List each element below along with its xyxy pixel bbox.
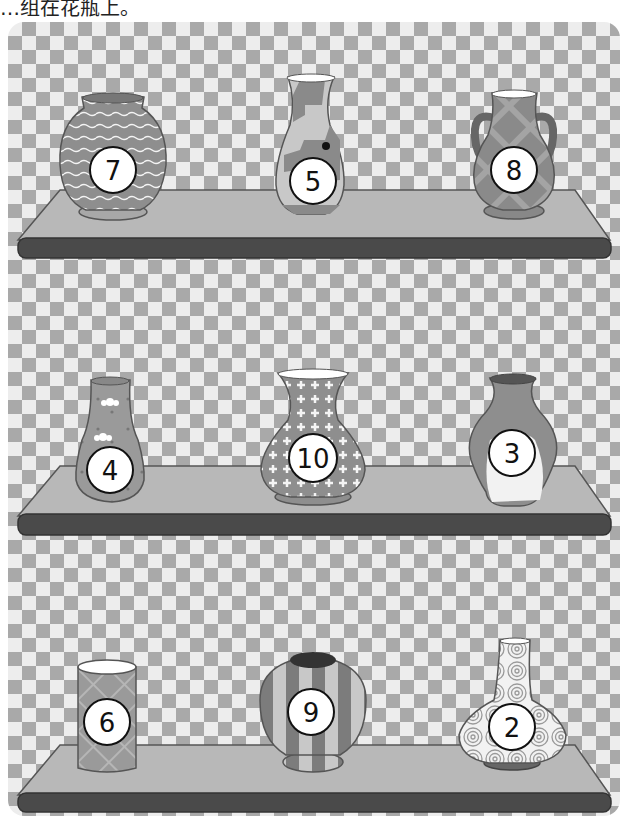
- vase-3-number: 3: [504, 439, 521, 469]
- vase-2[interactable]: 2: [459, 638, 566, 770]
- vase-6-number: 6: [99, 708, 116, 738]
- vase-4-number: 4: [102, 456, 119, 486]
- vase-8-number: 8: [506, 156, 523, 186]
- vase-7-number: 7: [105, 156, 122, 186]
- caption-text: …组在花瓶上。: [0, 0, 140, 21]
- vase-7[interactable]: 7: [60, 93, 166, 220]
- vase-8[interactable]: 8: [474, 90, 555, 219]
- checkered-wall-panel: 7 5 8 4 10: [8, 22, 620, 816]
- vase-2-number: 2: [504, 713, 521, 743]
- vase-10-number: 10: [296, 444, 329, 474]
- vase-10[interactable]: 10: [261, 369, 365, 505]
- vase-4[interactable]: 4: [76, 377, 144, 502]
- vase-6[interactable]: 6: [78, 660, 136, 772]
- vase-3[interactable]: 3: [469, 374, 556, 506]
- vase-5[interactable]: 5: [276, 74, 344, 214]
- vase-9-number: 9: [303, 698, 320, 728]
- vase-5-number: 5: [305, 167, 322, 197]
